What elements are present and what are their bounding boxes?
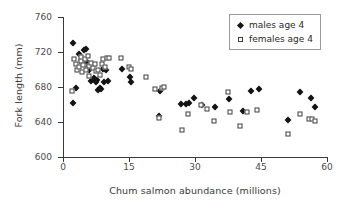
data-point-females [255, 107, 260, 112]
x-tick-label: 15 [117, 163, 141, 172]
y-tick [58, 52, 63, 53]
data-point-females [286, 132, 291, 137]
data-point-males [307, 95, 314, 102]
y-tick-label: 680 [26, 83, 52, 92]
data-point-males [127, 78, 134, 85]
data-point-males [248, 87, 255, 94]
data-point-females [157, 115, 162, 120]
data-point-males [70, 99, 77, 106]
data-point-females [97, 72, 102, 77]
data-point-males [312, 104, 319, 111]
data-point-males [211, 104, 218, 111]
y-axis-line [63, 17, 64, 157]
scatter-chart-figure: 600640680720760015304560 Chum salmon abu… [0, 0, 351, 209]
data-point-females [185, 112, 190, 117]
x-tick-label: 30 [183, 163, 207, 172]
y-tick [58, 122, 63, 123]
data-point-females [92, 62, 97, 67]
data-point-males [256, 85, 263, 92]
data-point-females [72, 57, 77, 62]
data-point-males [191, 94, 198, 101]
data-point-females [81, 63, 86, 68]
data-point-females [106, 56, 111, 61]
data-point-females [298, 112, 303, 117]
y-tick [58, 87, 63, 88]
data-point-females [85, 53, 90, 58]
data-point-males [69, 40, 76, 47]
legend-label-males: males age 4 [249, 21, 304, 30]
data-point-females [69, 88, 74, 93]
data-point-females [152, 86, 157, 91]
y-tick-label: 640 [26, 118, 52, 127]
data-point-females [96, 67, 101, 72]
legend-label-females: females age 4 [249, 35, 313, 44]
y-tick-label: 760 [26, 13, 52, 22]
data-point-females [162, 85, 167, 90]
legend-item-males: males age 4 [235, 19, 313, 31]
data-point-females [179, 127, 184, 132]
data-point-males [118, 65, 125, 72]
x-tick-label: 60 [315, 163, 339, 172]
filled-diamond-icon [235, 23, 245, 28]
y-tick [58, 17, 63, 18]
data-point-females [312, 119, 317, 124]
data-point-females [237, 123, 242, 128]
data-point-males [226, 96, 233, 103]
x-tick-label: 45 [249, 163, 273, 172]
data-point-females [143, 74, 148, 79]
data-point-females [199, 103, 204, 108]
data-point-females [103, 64, 108, 69]
data-point-females [83, 68, 88, 73]
legend-item-females: females age 4 [235, 33, 313, 45]
y-axis-title: Fork length (mm) [13, 21, 24, 151]
data-point-females [205, 106, 210, 111]
open-square-icon [235, 37, 245, 42]
y-tick-label: 720 [26, 48, 52, 57]
y-tick-label: 600 [26, 153, 52, 162]
chart-legend: males age 4 females age 4 [229, 14, 321, 50]
data-point-females [226, 90, 231, 95]
x-tick-label: 0 [51, 163, 75, 172]
data-point-females [228, 110, 233, 115]
data-point-males [296, 89, 303, 96]
data-point-males [285, 117, 292, 124]
x-axis-title: Chum salmon abundance (millions) [63, 185, 327, 196]
data-point-females [128, 66, 133, 71]
data-point-females [244, 109, 249, 114]
data-point-females [119, 56, 124, 61]
data-point-females [212, 119, 217, 124]
data-point-females [87, 73, 92, 78]
